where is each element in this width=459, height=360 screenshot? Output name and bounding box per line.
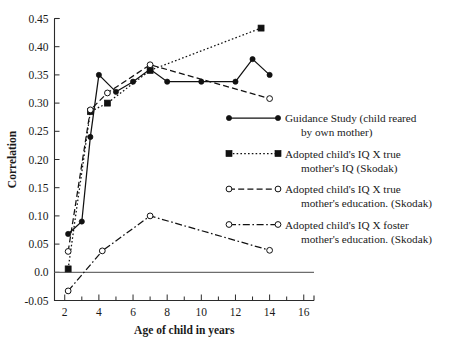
y-tick-label: 0.0 (34, 266, 49, 278)
legend-label-line2: by own mother) (301, 126, 373, 139)
y-tick-label: 0.40 (28, 41, 48, 53)
x-tick-label: 16 (298, 306, 310, 318)
legend-label-line2: mother's education. (Skodak) (301, 233, 432, 246)
legend-marker-adopted-foster-mother-education (275, 222, 281, 228)
series-guidance-study (66, 57, 273, 237)
data-point-guidance-study (96, 72, 101, 77)
y-tick-label: 0.15 (28, 182, 48, 194)
data-point-guidance-study (66, 231, 71, 236)
legend-label-line1: Adopted child's IQ X foster (285, 219, 409, 231)
series-adopted-true-mother-iq (65, 25, 264, 272)
axis-frame (55, 19, 315, 301)
y-tick-label: 0.35 (28, 69, 48, 81)
series-line-adopted-foster-mother-education (68, 216, 269, 291)
x-tick-label: 6 (130, 306, 136, 318)
data-point-guidance-study (165, 79, 170, 84)
legend-marker-guidance-study (275, 115, 280, 120)
y-tick-label: -0.05 (25, 295, 49, 307)
x-axis-title: Age of child in years (134, 324, 235, 337)
series-line-adopted-true-mother-education (68, 65, 269, 252)
y-tick-label: 0.45 (28, 13, 48, 25)
data-point-adopted-true-mother-education (65, 249, 71, 255)
x-tick-label: 10 (196, 306, 208, 318)
data-point-adopted-true-mother-education (87, 107, 93, 113)
data-point-adopted-true-mother-iq (258, 25, 264, 31)
series-line-guidance-study (68, 59, 269, 234)
data-point-adopted-true-mother-education (147, 62, 153, 68)
y-tick-label: 0.20 (28, 154, 48, 166)
data-point-adopted-foster-mother-education (99, 248, 105, 254)
legend-item-guidance-study[interactable]: Guidance Study (child rearedby own mothe… (226, 112, 416, 139)
data-point-adopted-foster-mother-education (65, 288, 71, 294)
y-axis-title: Correlation (6, 130, 18, 188)
legend-marker-guidance-study (226, 115, 231, 120)
x-tick-label: 14 (264, 306, 276, 318)
data-point-adopted-true-mother-iq (104, 100, 110, 106)
data-point-guidance-study (250, 57, 255, 62)
data-point-adopted-true-mother-iq (65, 266, 71, 272)
x-tick-label: 2 (62, 306, 68, 318)
data-point-adopted-foster-mother-education (147, 213, 153, 219)
data-point-guidance-study (88, 134, 93, 139)
correlation-line-chart: -0.050.00.050.100.150.200.250.300.350.40… (0, 0, 459, 360)
legend-item-adopted-foster-mother-education[interactable]: Adopted child's IQ X fostermother's educ… (226, 219, 432, 246)
legend-marker-adopted-true-mother-iq (226, 151, 232, 157)
x-tick-label: 4 (96, 306, 102, 318)
legend-marker-adopted-true-mother-iq (275, 151, 281, 157)
legend-label-line1: Adopted child's IQ X true (285, 183, 401, 195)
data-point-guidance-study (233, 79, 238, 84)
data-point-guidance-study (267, 72, 272, 77)
x-tick-label: 12 (230, 306, 242, 318)
legend-label-line2: mother's education. (Skodak) (301, 197, 432, 210)
legend-marker-adopted-true-mother-education (226, 186, 232, 192)
x-tick-label: 8 (164, 306, 170, 318)
legend-item-adopted-true-mother-education[interactable]: Adopted child's IQ X truemother's educat… (226, 183, 432, 210)
data-point-adopted-true-mother-education (105, 90, 111, 96)
data-point-guidance-study (79, 219, 84, 224)
legend-label-line1: Guidance Study (child reared (285, 112, 417, 125)
legend-marker-adopted-true-mother-education (275, 186, 281, 192)
data-point-adopted-true-mother-education (267, 96, 273, 102)
legend-label-line2: mother's IQ (Skodak) (301, 162, 398, 175)
y-tick-label: 0.05 (28, 238, 48, 250)
data-point-guidance-study (113, 89, 118, 94)
data-point-adopted-foster-mother-education (267, 247, 273, 253)
series-adopted-foster-mother-education (65, 213, 272, 294)
legend-item-adopted-true-mother-iq[interactable]: Adopted child's IQ X truemother's IQ (Sk… (226, 148, 401, 175)
series-line-adopted-true-mother-iq (68, 28, 261, 269)
y-tick-label: 0.25 (28, 125, 48, 137)
y-tick-label: 0.30 (28, 97, 48, 109)
data-point-adopted-true-mother-iq (147, 67, 153, 73)
legend-label-line1: Adopted child's IQ X true (285, 148, 401, 160)
figure-container: -0.050.00.050.100.150.200.250.300.350.40… (0, 0, 459, 360)
y-tick-label: 0.10 (28, 210, 48, 222)
legend-marker-adopted-foster-mother-education (226, 222, 232, 228)
